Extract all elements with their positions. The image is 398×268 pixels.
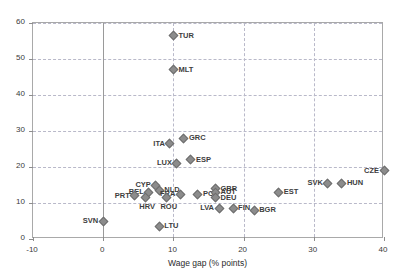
data-point-label: LVA — [200, 204, 214, 212]
gridline-vertical — [314, 23, 315, 237]
diamond-marker-icon — [168, 31, 178, 41]
gridline-horizontal — [33, 23, 382, 24]
gridline-horizontal — [33, 59, 382, 60]
diamond-marker-icon — [186, 155, 196, 165]
y-tick-mark — [29, 59, 33, 60]
x-tick-label: -10 — [12, 246, 52, 254]
x-tick-label: 30 — [293, 246, 333, 254]
x-tick-mark — [173, 237, 174, 241]
data-point-label: FIN — [238, 204, 250, 212]
data-point-label: ESP — [196, 156, 211, 164]
x-tick-mark — [103, 237, 104, 241]
plot-area: TURMLTGRCITAESPLUXCYPNLDBELFRAPOLPRTHRVR… — [32, 22, 383, 238]
diamond-marker-icon — [211, 193, 221, 203]
x-tick-label: 40 — [363, 246, 398, 254]
x-tick-mark — [384, 237, 385, 241]
data-point-label: CZE — [364, 167, 379, 175]
diamond-marker-icon — [154, 221, 164, 231]
data-point-label: EST — [284, 188, 299, 196]
y-tick-label: 20 — [0, 162, 25, 170]
x-axis-title: Wage gap (% points) — [32, 258, 383, 268]
y-tick-mark — [29, 131, 33, 132]
diamond-marker-icon — [323, 178, 333, 188]
data-point-label: DEU — [221, 194, 237, 202]
data-point-label: TUR — [178, 32, 193, 40]
gridline-horizontal — [33, 167, 382, 168]
y-tick-label: 30 — [0, 126, 25, 134]
data-point-label: HUN — [347, 179, 363, 187]
data-point-label: LTU — [164, 222, 178, 230]
data-point-label: ITA — [153, 140, 165, 148]
data-point-label: PRT — [115, 192, 130, 200]
axis-line-zero — [103, 23, 104, 237]
y-tick-label: 10 — [0, 198, 25, 206]
data-point-label: ROU — [160, 203, 177, 211]
data-point-label: HRV — [139, 203, 155, 211]
x-tick-label: 0 — [82, 246, 122, 254]
data-point-label: BGR — [259, 206, 276, 214]
y-tick-mark — [29, 23, 33, 24]
y-tick-label: 40 — [0, 90, 25, 98]
diamond-marker-icon — [179, 133, 189, 143]
data-point-label: MLT — [178, 66, 193, 74]
diamond-marker-icon — [168, 65, 178, 75]
x-tick-label: 10 — [152, 246, 192, 254]
diamond-marker-icon — [214, 203, 224, 213]
y-tick-label: 60 — [0, 18, 25, 26]
x-tick-label: 20 — [223, 246, 263, 254]
x-tick-mark — [244, 237, 245, 241]
y-tick-mark — [29, 167, 33, 168]
data-point-label: GRC — [189, 134, 206, 142]
data-point-label: LUX — [157, 159, 172, 167]
x-tick-mark — [314, 237, 315, 241]
y-tick-label: 50 — [0, 54, 25, 62]
diamond-marker-icon — [337, 178, 347, 188]
data-point-label: SVK — [307, 179, 322, 187]
diamond-marker-icon — [228, 203, 238, 213]
y-tick-mark — [29, 203, 33, 204]
diamond-marker-icon — [193, 189, 203, 199]
gridline-horizontal — [33, 131, 382, 132]
diamond-marker-icon — [249, 205, 259, 215]
gridline-horizontal — [33, 95, 382, 96]
data-point-label: SVN — [83, 217, 98, 225]
y-tick-mark — [29, 95, 33, 96]
diamond-marker-icon — [274, 187, 284, 197]
x-tick-mark — [33, 237, 34, 241]
y-tick-label: 0 — [0, 234, 25, 242]
diamond-marker-icon — [98, 216, 108, 226]
